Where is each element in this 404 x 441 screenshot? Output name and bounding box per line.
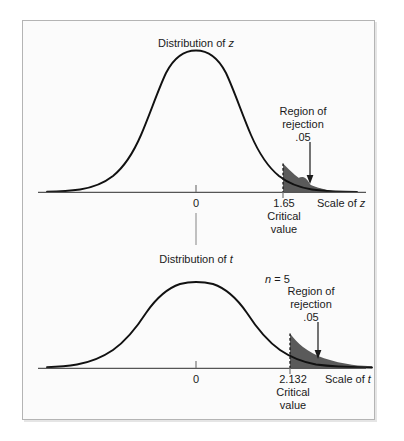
t-critical-value-label: 2.132 Critical value bbox=[276, 373, 310, 412]
z-region-alpha: .05 bbox=[279, 131, 326, 144]
z-chart-title-text: Distribution of bbox=[158, 37, 225, 49]
t-critical-value-number: 2.132 bbox=[276, 373, 310, 386]
t-critical-value-line1: Critical bbox=[276, 386, 310, 399]
t-sample-size-variable: n bbox=[265, 273, 271, 285]
t-region-alpha: .05 bbox=[287, 311, 334, 324]
figure-page: Distribution of z Region of rejection .0… bbox=[0, 0, 404, 441]
t-axis-label: Scale of t bbox=[325, 373, 371, 386]
t-critical-value-line2: value bbox=[276, 399, 310, 412]
z-critical-value-number: 1.65 bbox=[267, 197, 301, 210]
z-chart-title-variable: z bbox=[228, 37, 234, 49]
t-axis-label-text: Scale of bbox=[325, 373, 365, 385]
z-zero-tick-label: 0 bbox=[193, 197, 199, 210]
z-region-label-line2: rejection bbox=[279, 118, 326, 131]
z-region-label-line1: Region of bbox=[279, 105, 326, 118]
figure-frame bbox=[22, 20, 375, 420]
t-chart-title-variable: t bbox=[230, 253, 233, 265]
t-region-label-line1: Region of bbox=[287, 285, 334, 298]
t-sample-size-label: n = 5 bbox=[265, 273, 290, 286]
t-region-of-rejection-label: Region of rejection .05 bbox=[287, 285, 334, 324]
z-critical-value-label: 1.65 Critical value bbox=[267, 197, 301, 236]
z-critical-value-line2: value bbox=[267, 223, 301, 236]
t-zero-tick-label: 0 bbox=[193, 373, 199, 386]
z-axis-label: Scale of z bbox=[317, 197, 365, 210]
t-region-label-line2: rejection bbox=[287, 298, 334, 311]
t-chart-title-text: Distribution of bbox=[159, 253, 226, 265]
z-critical-value-line1: Critical bbox=[267, 210, 301, 223]
t-axis-label-variable: t bbox=[368, 373, 371, 385]
t-chart-title: Distribution of t bbox=[159, 253, 232, 266]
z-axis-label-text: Scale of bbox=[317, 197, 357, 209]
t-sample-size-value: = 5 bbox=[274, 273, 290, 285]
z-axis-label-variable: z bbox=[360, 197, 366, 209]
z-region-of-rejection-label: Region of rejection .05 bbox=[279, 105, 326, 144]
z-chart-title: Distribution of z bbox=[158, 37, 234, 50]
